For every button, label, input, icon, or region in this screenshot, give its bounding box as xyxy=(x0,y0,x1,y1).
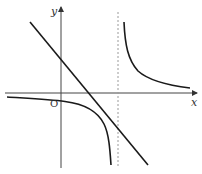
origin-label: O xyxy=(50,98,58,109)
function-graph: y x O xyxy=(0,0,202,174)
x-axis-label: x xyxy=(191,96,198,109)
hyperbola-right-branch xyxy=(124,22,190,88)
hyperbola-left-branch xyxy=(7,97,111,165)
y-axis-label: y xyxy=(50,5,58,18)
